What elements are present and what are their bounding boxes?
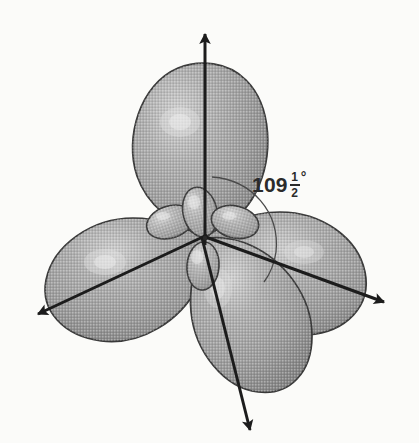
bond-angle-whole-number: 109 xyxy=(252,174,288,195)
orbital-diagram-canvas xyxy=(0,0,419,443)
bond-angle-fraction: 1 2 xyxy=(290,171,300,199)
degree-symbol: ° xyxy=(301,170,307,184)
orbital-diagram-figure: 109 1 2 ° xyxy=(0,0,419,443)
bond-angle-fraction-denominator: 2 xyxy=(290,187,299,199)
bond-angle-label: 109 1 2 ° xyxy=(252,170,305,198)
nucleus-point xyxy=(203,236,207,240)
bond-angle-fraction-numerator: 1 xyxy=(290,171,299,183)
